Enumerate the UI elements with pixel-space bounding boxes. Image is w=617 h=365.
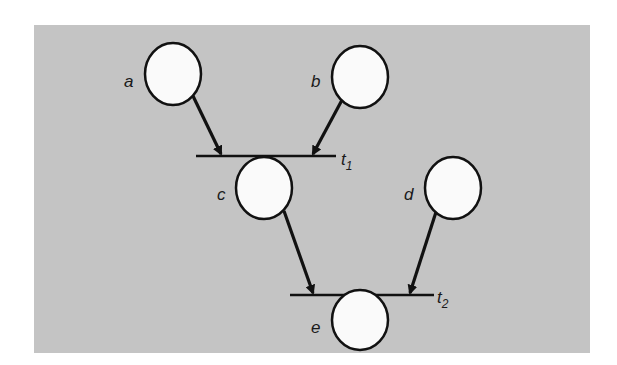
- transition-t1-label: t1: [341, 150, 352, 173]
- place-b-label: b: [311, 72, 320, 91]
- place-a: [145, 43, 201, 105]
- place-d: [425, 157, 481, 219]
- arc-c-t2: [284, 211, 313, 293]
- transition-t2-label: t2: [437, 288, 449, 311]
- arc-a-t1: [193, 96, 221, 154]
- place-e-label: e: [311, 318, 320, 337]
- arc-b-t1: [313, 100, 342, 154]
- place-c-label: c: [217, 185, 226, 204]
- place-a-label: a: [124, 72, 133, 91]
- place-b: [332, 46, 388, 108]
- place-d-label: d: [404, 185, 414, 204]
- petri-net-diagram: a b c d e t1 t2: [0, 0, 617, 365]
- transition-t2-subscript: 2: [441, 297, 449, 311]
- place-e: [332, 290, 388, 350]
- place-c: [236, 157, 292, 219]
- transition-t1-subscript: 1: [346, 159, 353, 173]
- arc-d-t2: [410, 212, 436, 293]
